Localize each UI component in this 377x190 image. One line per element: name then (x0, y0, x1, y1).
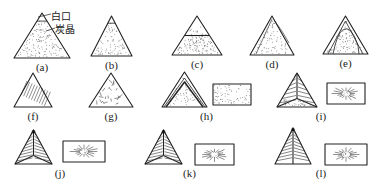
panel-g (89, 73, 133, 107)
annotation-graphite: 炭晶 (55, 21, 75, 36)
panel-label-j: (j) (45, 167, 75, 179)
panel-c (172, 16, 222, 55)
panel-label-h: (h) (192, 110, 222, 122)
panel-label-c: (c) (182, 58, 212, 70)
panel-i (277, 73, 317, 107)
panel-label-g: (g) (96, 110, 126, 122)
panel-label-i: (i) (306, 110, 336, 122)
panel-h (162, 72, 207, 107)
cross-section-k (195, 144, 234, 165)
panel-l (275, 127, 311, 164)
cross-section-i (327, 83, 365, 104)
cross-section-j (63, 141, 105, 162)
panel-label-k: (k) (175, 167, 205, 179)
cross-section-h (213, 84, 251, 105)
panel-label-a: (a) (27, 61, 57, 73)
panel-e (323, 16, 368, 54)
panel-label-d: (d) (257, 58, 287, 70)
panel-label-l: (l) (306, 167, 336, 179)
cross-section-l (325, 144, 367, 165)
panel-f (14, 73, 52, 107)
panel-label-f: (f) (18, 110, 48, 122)
panel-b (91, 16, 132, 56)
leader-graphite (46, 28, 55, 31)
panel-label-e: (e) (331, 57, 361, 69)
panel-k (145, 129, 182, 164)
panel-label-b: (b) (97, 59, 127, 71)
panel-j (15, 129, 52, 164)
panel-d (250, 16, 294, 55)
